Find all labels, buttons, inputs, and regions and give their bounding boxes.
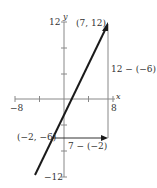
rise-label: 12 − (−6) <box>111 65 156 74</box>
x-axis-label: x <box>116 93 121 101</box>
x-max-label: 8 <box>111 104 117 113</box>
run-label: 7 − (−2) <box>68 142 107 151</box>
y-min-label: −12 <box>44 173 63 182</box>
x-min-label: −8 <box>10 104 23 113</box>
coordinate-plane <box>0 0 157 188</box>
y-axis-label: y <box>63 13 68 21</box>
point-label-neg2-neg6: (−2, −6) <box>17 133 56 142</box>
graph-line <box>35 28 106 175</box>
y-max-label: 12 <box>49 18 60 27</box>
point-label-7-12: (7, 12) <box>76 19 106 28</box>
